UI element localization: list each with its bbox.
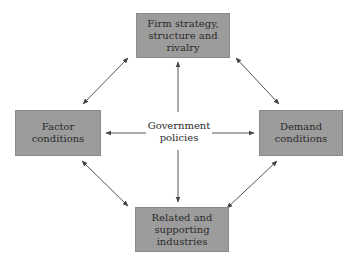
node-government-policies: Government policies bbox=[146, 120, 212, 144]
node-factor-conditions: Factor conditions bbox=[15, 110, 101, 156]
node-related-industries: Related and supporting industries bbox=[135, 207, 229, 252]
arrow-bottom-left bbox=[82, 161, 128, 206]
arrow-top-right bbox=[236, 58, 279, 104]
node-demand-conditions: Demand conditions bbox=[259, 110, 343, 156]
arrow-bottom-right bbox=[227, 161, 277, 208]
arrow-top-left bbox=[83, 58, 128, 104]
node-firm-strategy: Firm strategy, structure and rivalry bbox=[136, 13, 230, 58]
porter-diamond-diagram: Firm strategy, structure and rivalry Fac… bbox=[0, 0, 359, 263]
